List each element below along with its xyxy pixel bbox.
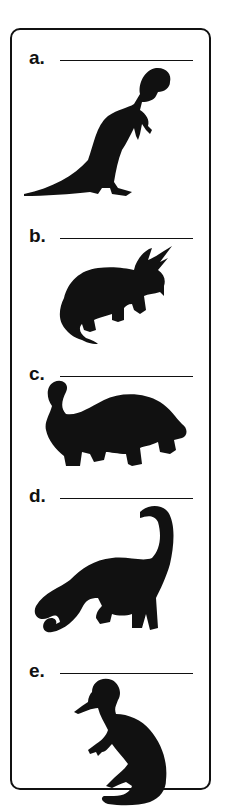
brontosaurus-icon: [30, 502, 178, 640]
triceratops-icon: [40, 240, 176, 344]
answer-blank[interactable]: [60, 376, 193, 377]
item-label: c.: [29, 364, 45, 383]
ankylosaurus-icon: [44, 380, 188, 472]
corythosaurus-icon: [68, 678, 172, 806]
answer-blank[interactable]: [60, 498, 193, 499]
item-label: e.: [29, 661, 45, 680]
tyrannosaurus-icon: [22, 64, 172, 200]
answer-blank[interactable]: [60, 673, 193, 674]
answer-blank[interactable]: [60, 60, 193, 61]
answer-blank[interactable]: [60, 238, 193, 239]
